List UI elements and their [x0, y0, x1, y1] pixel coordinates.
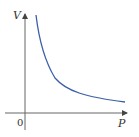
chart: V P 0	[0, 0, 139, 137]
origin-label: 0	[17, 117, 23, 128]
x-axis-label: P	[117, 117, 126, 130]
curve-v-vs-p	[36, 15, 125, 102]
y-axis-label: V	[13, 9, 22, 22]
